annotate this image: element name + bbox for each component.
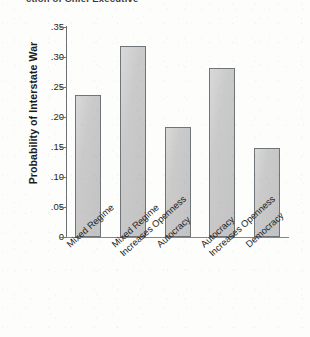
y-tick-label: .25 xyxy=(51,81,64,92)
y-tick-mark xyxy=(60,207,66,208)
y-tick-label: .30 xyxy=(51,51,64,62)
y-tick: .20 xyxy=(0,117,78,118)
y-tick: .15 xyxy=(0,147,78,148)
y-tick: .30 xyxy=(0,57,78,58)
bar-chart: Probability of Interstate War 0.05.10.15… xyxy=(0,0,310,337)
y-tick-mark xyxy=(60,27,66,28)
y-tick: .25 xyxy=(0,87,78,88)
y-tick-label: .20 xyxy=(51,111,64,122)
y-tick-label: .10 xyxy=(51,171,64,182)
y-tick: .05 xyxy=(0,207,78,208)
y-tick: 0 xyxy=(0,237,78,238)
bar xyxy=(120,46,146,237)
y-tick-mark xyxy=(60,237,66,238)
y-tick-label: .05 xyxy=(51,201,64,212)
y-tick-label: 0 xyxy=(59,231,64,242)
y-tick-mark xyxy=(60,87,66,88)
y-tick-mark xyxy=(60,117,66,118)
y-tick-label: .15 xyxy=(51,141,64,152)
y-tick: .35 xyxy=(0,27,78,28)
y-tick-mark xyxy=(60,57,66,58)
y-tick-label: .35 xyxy=(51,21,64,32)
y-tick: .10 xyxy=(0,177,78,178)
y-tick-mark xyxy=(60,147,66,148)
y-tick-mark xyxy=(60,177,66,178)
